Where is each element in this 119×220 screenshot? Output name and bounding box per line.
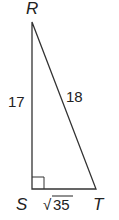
triangle-rst (32, 22, 96, 189)
side-label-rs: 17 (8, 93, 25, 110)
side-label-st-value: 35 (53, 196, 70, 213)
vertex-label-r: R (26, 0, 38, 18)
side-label-st-radical: √ (43, 196, 52, 213)
vertex-label-t: T (93, 195, 105, 214)
vertex-label-s: S (16, 195, 28, 214)
side-label-rt: 18 (66, 88, 83, 105)
right-angle-marker (32, 177, 44, 189)
triangle-diagram: R S T 17 18 √ 35 (0, 0, 119, 220)
